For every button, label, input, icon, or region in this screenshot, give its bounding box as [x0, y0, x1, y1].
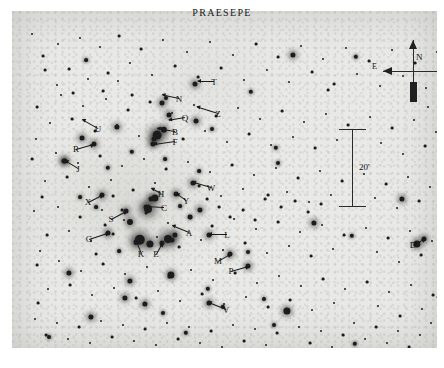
- star-label-j: J: [76, 165, 80, 174]
- star-label-p: P: [228, 267, 233, 276]
- star-label-v: V: [223, 306, 230, 315]
- scale-bar-top-cap: [339, 129, 366, 130]
- star-label-k: K: [138, 250, 145, 259]
- star-label-c: C: [161, 204, 167, 213]
- compass-north-arrowhead-icon: [409, 40, 417, 49]
- star-label-l: L: [224, 231, 230, 240]
- scale-bar: [352, 129, 353, 207]
- star-label-n: N: [176, 95, 183, 104]
- star-label-d: D: [410, 241, 417, 250]
- star-label-b: B: [172, 128, 178, 137]
- star-label-z: Z: [215, 110, 221, 119]
- star-chart-figure: TNQZBFURJWYXHCSGAKELMPVD 20' N E PRAESEP…: [0, 0, 444, 368]
- star-label-y: Y: [183, 197, 190, 206]
- star-label-g: G: [86, 235, 93, 244]
- star-label-f: F: [172, 138, 177, 147]
- star-label-q: Q: [182, 114, 189, 123]
- compass-south-bar-icon: [410, 82, 417, 102]
- scale-bar-bottom-cap: [339, 206, 366, 207]
- star-label-a: A: [186, 229, 193, 238]
- compass-rose: N E: [383, 40, 437, 102]
- photographic-plate: TNQZBFURJWYXHCSGAKELMPVD 20' N E: [12, 11, 437, 348]
- page-title: PRAESEPE: [0, 7, 444, 18]
- compass-north-label: N: [416, 52, 423, 62]
- star-label-w: W: [207, 184, 216, 193]
- compass-east-label: E: [372, 62, 377, 71]
- star-label-t: T: [211, 78, 217, 87]
- star-label-s: S: [108, 215, 113, 224]
- scale-bar-label: 20': [359, 162, 370, 172]
- star-label-m: M: [214, 257, 222, 266]
- star-label-h: H: [158, 190, 165, 199]
- star-label-r: R: [73, 145, 79, 154]
- star-label-e: E: [153, 250, 159, 259]
- star-label-x: X: [85, 198, 92, 207]
- star-label-u: U: [95, 125, 102, 134]
- compass-east-arrowhead-icon: [383, 67, 392, 75]
